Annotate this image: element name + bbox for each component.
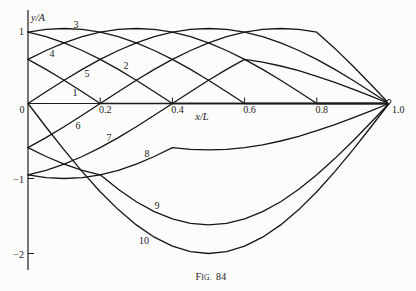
figure-caption: FIG.84 [195,271,226,282]
curve-label-8: 8 [145,148,150,159]
x-tick-label: 0 [20,104,25,115]
y-tick-label: 1 [19,26,24,37]
curve-label-7: 7 [107,132,112,143]
x-tick-label: 1.0 [392,104,405,115]
caption-smallcaps: IG. [201,273,212,282]
curve-label-10: 10 [139,235,149,246]
x-tick-label: 0.8 [316,104,329,115]
curve-label-2: 2 [124,60,129,71]
fixed-end-circle-icon [387,100,391,104]
curve-label-5: 5 [85,68,90,79]
y-tick-label: −2 [13,249,24,260]
figure-84: 00.20.40.60.81.0 1−1−2 y/A x/L 1 2 3 4 5… [0,0,416,291]
curve-label-6: 6 [76,120,81,131]
y-axis-label: y/A [30,12,46,23]
curve-label-1: 1 [73,87,78,98]
x-tick-label: 0.2 [99,104,112,115]
x-tick-label: 0.4 [171,104,184,115]
curve-label-9: 9 [155,200,160,211]
curve-label-4: 4 [50,48,55,59]
x-axis-label: x/L [194,111,209,122]
curve-label-3: 3 [74,19,79,30]
y-tick-label: −1 [13,174,24,185]
caption-number: 84 [216,271,227,282]
x-tick-label: 0.6 [243,104,256,115]
